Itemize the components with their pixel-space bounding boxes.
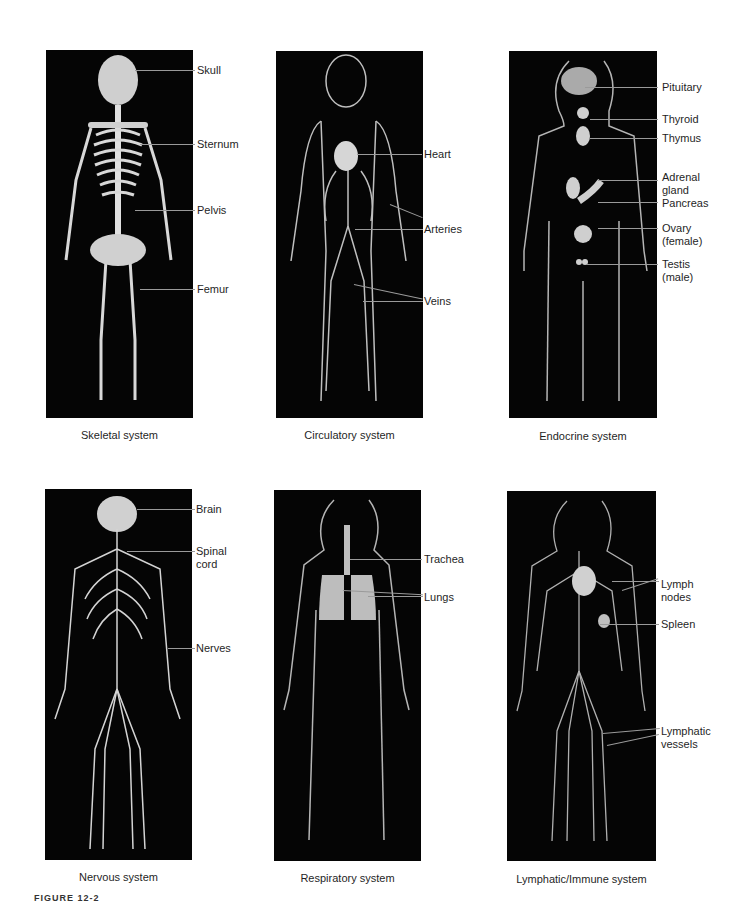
skeletal-illustration <box>46 50 193 418</box>
label-thymus: Thymus <box>662 132 701 145</box>
skeleton-figure-icon <box>46 50 193 418</box>
respiratory-figure-icon <box>274 490 421 861</box>
nervous-illustration <box>45 489 192 860</box>
label-brain: Brain <box>196 503 222 516</box>
lymphatic-illustration <box>507 491 656 861</box>
caption-respiratory-system: Respiratory system <box>274 872 421 884</box>
endocrine-illustration <box>509 51 657 418</box>
label-heart: Heart <box>424 148 451 161</box>
label-arteries: Arteries <box>424 223 462 236</box>
label-pelvis: Pelvis <box>197 204 226 217</box>
label-trachea: Trachea <box>424 553 464 566</box>
label-lymphatic-vessels: Lymphatic vessels <box>661 725 711 751</box>
label-testis: Testis (male) <box>662 258 693 284</box>
label-pituitary: Pituitary <box>662 81 702 94</box>
caption-lymphatic-immune-system: Lymphatic/Immune system <box>500 873 663 885</box>
respiratory-illustration <box>274 490 421 861</box>
nervous-figure-icon <box>45 489 192 860</box>
label-femur: Femur <box>197 283 229 296</box>
caption-endocrine-system: Endocrine system <box>509 430 657 442</box>
label-spleen: Spleen <box>661 618 695 631</box>
label-adrenal-gland: Adrenal gland <box>662 171 700 197</box>
label-skull: Skull <box>197 64 221 77</box>
label-veins: Veins <box>424 295 451 308</box>
label-ovary: Ovary (female) <box>662 222 702 248</box>
label-pancreas: Pancreas <box>662 197 708 210</box>
label-spinal-cord: Spinal cord <box>196 545 227 571</box>
label-lungs: Lungs <box>424 591 454 604</box>
label-lymph-nodes: Lymph nodes <box>661 578 694 604</box>
label-sternum: Sternum <box>197 138 239 151</box>
label-nerves: Nerves <box>196 642 231 655</box>
caption-skeletal-system: Skeletal system <box>46 429 193 441</box>
label-thyroid: Thyroid <box>662 113 699 126</box>
caption-nervous-system: Nervous system <box>45 871 192 883</box>
figure-number-partial: FIGURE 12-2 <box>34 893 100 903</box>
lymphatic-figure-icon <box>507 491 656 861</box>
circulatory-figure-icon <box>276 51 423 418</box>
endocrine-figure-icon <box>509 51 657 418</box>
circulatory-illustration <box>276 51 423 418</box>
caption-circulatory-system: Circulatory system <box>276 429 423 441</box>
